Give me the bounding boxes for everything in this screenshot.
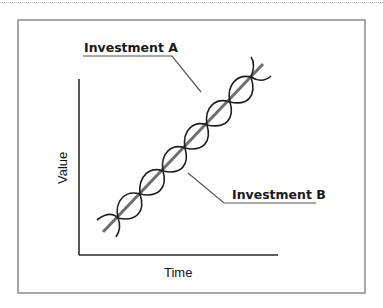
investment-b-strand — [116, 76, 271, 237]
x-axis-label: Time — [164, 265, 192, 280]
investment-a-label: Investment A — [84, 40, 178, 55]
investment-a-strand — [97, 57, 254, 220]
investment-b-label: Investment B — [232, 187, 326, 202]
investment-a-leader — [83, 56, 201, 92]
y-axis-label: Value — [55, 152, 70, 184]
diagram-frame — [18, 20, 365, 293]
chart-diagram: Investment A Investment B Time Value — [0, 0, 383, 308]
